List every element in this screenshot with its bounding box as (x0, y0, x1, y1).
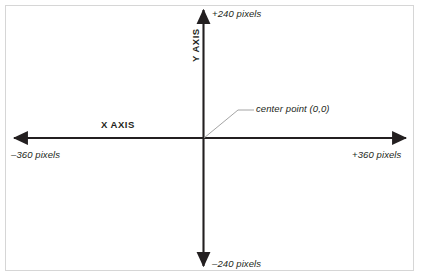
y-axis-min-label: –240 pixels (212, 259, 261, 269)
coordinate-diagram: +240 pixels –240 pixels –360 pixels +360… (0, 0, 421, 280)
x-axis-max-label: +360 pixels (352, 150, 401, 160)
center-point-leader-line (204, 110, 254, 138)
x-axis-min-label: –360 pixels (11, 150, 60, 160)
center-point-label: center point (0,0) (256, 104, 330, 114)
x-axis-title: X AXIS (101, 120, 135, 130)
axes-graphic (0, 0, 421, 280)
y-axis-title: Y AXIS (191, 28, 201, 62)
y-axis-max-label: +240 pixels (212, 9, 261, 19)
